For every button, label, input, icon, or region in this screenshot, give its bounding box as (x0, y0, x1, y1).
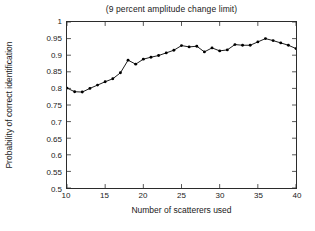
x-tick-label: 40 (293, 191, 302, 200)
plot-area (66, 21, 297, 189)
data-point (233, 43, 236, 46)
plot-svg (67, 22, 296, 188)
data-point (119, 71, 122, 74)
y-axis-label: Probability of correct identification (4, 41, 14, 168)
x-tick-label: 20 (139, 191, 148, 200)
y-tick-label: 0.9 (30, 50, 62, 59)
chart-page: (9 percent amplitude change limit) Proba… (0, 0, 315, 231)
data-point (88, 87, 91, 90)
data-point (134, 63, 137, 66)
x-tick-label: 10 (62, 191, 71, 200)
data-point (180, 44, 183, 47)
data-point (241, 44, 244, 47)
x-tick-label: 30 (216, 191, 225, 200)
y-tick-label: 0.85 (30, 67, 62, 76)
data-point (287, 44, 290, 47)
data-point (172, 49, 175, 52)
y-axis-tick-labels: 0.50.550.60.650.70.750.80.850.90.951 (30, 21, 62, 189)
y-tick-label: 0.8 (30, 84, 62, 93)
y-tick-label: 0.55 (30, 168, 62, 177)
y-tick-label: 0.7 (30, 117, 62, 126)
data-point (272, 39, 275, 42)
data-point (218, 49, 221, 52)
data-point (150, 56, 153, 59)
data-point (256, 40, 259, 43)
data-point (104, 80, 107, 83)
data-point (73, 90, 76, 93)
y-axis-label-container: Probability of correct identification (0, 21, 18, 189)
x-tick-label: 35 (254, 191, 263, 200)
data-point (127, 59, 130, 62)
data-point (203, 50, 206, 53)
data-point (264, 37, 267, 40)
chart-title: (9 percent amplitude change limit) (0, 4, 315, 14)
data-point (142, 58, 145, 61)
y-tick-label: 0.75 (30, 101, 62, 110)
data-point (111, 77, 114, 80)
data-point (249, 44, 252, 47)
y-tick-label: 0.6 (30, 151, 62, 160)
data-point (195, 45, 198, 48)
data-point (96, 84, 99, 87)
y-tick-label: 1 (30, 17, 62, 26)
data-point (279, 41, 282, 44)
data-point-markers (67, 37, 296, 93)
data-point (165, 51, 168, 54)
y-tick-label: 0.65 (30, 134, 62, 143)
data-point (81, 91, 84, 94)
data-point (188, 45, 191, 48)
data-point (211, 46, 214, 49)
data-point (226, 48, 229, 51)
x-tick-label: 15 (100, 191, 109, 200)
y-tick-label: 0.95 (30, 33, 62, 42)
x-axis-label: Number of scatterers used (66, 205, 297, 215)
y-tick-label: 0.5 (30, 185, 62, 194)
data-point (157, 54, 160, 57)
x-tick-label: 25 (177, 191, 186, 200)
x-axis-tick-labels: 10152025303540 (66, 191, 297, 205)
